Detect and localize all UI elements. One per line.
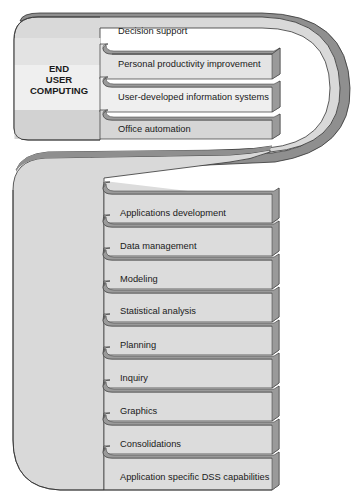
label-applications-development: Applications development (120, 208, 226, 218)
label-application-specific-dss: Application specific DSS capabilities (120, 472, 269, 482)
label-consolidations: Consolidations (120, 439, 181, 449)
label-decision-support: Decision support (118, 26, 187, 36)
label-graphics: Graphics (120, 406, 157, 416)
heading-line-2: USER (22, 74, 96, 85)
label-personal-productivity: Personal productivity improvement (118, 59, 261, 69)
label-statistical-analysis: Statistical analysis (120, 306, 196, 316)
heading-line-1: END (22, 63, 96, 74)
label-inquiry: Inquiry (120, 373, 148, 383)
label-data-management: Data management (120, 241, 197, 251)
label-planning: Planning (120, 340, 156, 350)
label-user-developed-is: User-developed information systems (118, 92, 269, 102)
label-modeling: Modeling (120, 274, 158, 284)
label-office-automation: Office automation (118, 124, 191, 134)
end-user-computing-heading: END USER COMPUTING (22, 63, 96, 96)
heading-line-3: COMPUTING (22, 85, 96, 96)
